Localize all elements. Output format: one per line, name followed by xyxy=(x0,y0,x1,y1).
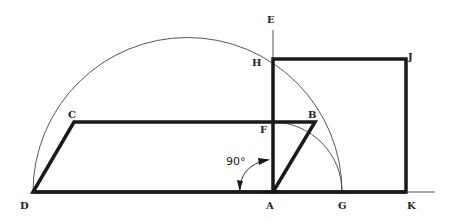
label-G: G xyxy=(338,200,347,211)
label-A: A xyxy=(265,200,274,211)
label-E: E xyxy=(267,14,275,25)
angle-label: 90° xyxy=(226,155,246,168)
label-H: H xyxy=(252,57,261,68)
label-F: F xyxy=(260,124,267,135)
label-J: J xyxy=(407,51,413,62)
arrowhead-bottom-icon xyxy=(237,180,243,191)
label-B: B xyxy=(308,109,316,120)
label-D: D xyxy=(20,200,29,211)
geometry-diagram: D A G K C B F H J E 90° xyxy=(0,0,464,223)
label-C: C xyxy=(68,109,76,120)
label-K: K xyxy=(407,200,416,211)
arrowhead-top-icon xyxy=(258,158,270,165)
